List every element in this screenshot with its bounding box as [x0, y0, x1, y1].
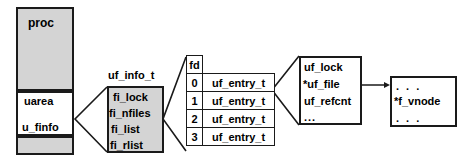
field-uf-entry-ellipsis: ... — [304, 112, 316, 123]
field-fi-list: fi_list — [111, 124, 140, 135]
fd-entry-cell: uf_entry_t — [203, 110, 275, 128]
fd-table: fd 0 uf_entry_t 1 uf_entry_t 2 uf_entry_… — [186, 55, 275, 146]
proc-box-bottom-segment — [16, 136, 74, 155]
fd-entry-cell: uf_entry_t — [203, 92, 275, 110]
field-file-ellipsis-top: . . . — [396, 81, 421, 92]
field-f-vnode: *f_vnode — [394, 96, 440, 107]
table-row: 0 uf_entry_t — [187, 74, 275, 92]
fd-index-cell: 1 — [187, 92, 203, 110]
fd-table-header-row: fd — [187, 56, 275, 74]
fd-entry-cell: uf_entry_t — [203, 74, 275, 92]
field-fi-rlist: fi_rlist — [110, 140, 143, 151]
table-row: 3 uf_entry_t — [187, 128, 275, 146]
connector-u-finfo-to-uf-info — [75, 87, 107, 152]
proc-title-label: proc — [28, 17, 54, 29]
field-fi-nfiles: fi_nfiles — [109, 108, 151, 119]
connector-uf-entry-to-uf-lock — [272, 56, 299, 125]
field-file-ellipsis-bottom: . . . — [396, 113, 421, 124]
table-row: 1 uf_entry_t — [187, 92, 275, 110]
connector-fi-list-to-fd-table — [163, 57, 186, 151]
table-row: 2 uf_entry_t — [187, 110, 275, 128]
fd-header-spacer — [203, 56, 275, 74]
fd-index-cell: 3 — [187, 128, 203, 146]
u-finfo-label: u_finfo — [22, 122, 59, 133]
fd-entry-cell: uf_entry_t — [203, 128, 275, 146]
uf-info-type-label: uf_info_t — [108, 70, 154, 81]
uarea-label: uarea — [24, 96, 53, 107]
field-uf-lock: uf_lock — [304, 62, 343, 73]
fd-index-cell: 0 — [187, 74, 203, 92]
field-uf-refcnt: uf_refcnt — [304, 96, 351, 107]
field-fi-lock: fi_lock — [113, 92, 148, 103]
fd-header-cell: fd — [187, 56, 203, 74]
field-uf-file: *uf_file — [303, 79, 340, 90]
fd-index-cell: 2 — [187, 110, 203, 128]
kernel-structure-diagram: proc uarea u_finfo uf_info_t fi_lock fi_… — [0, 0, 468, 162]
